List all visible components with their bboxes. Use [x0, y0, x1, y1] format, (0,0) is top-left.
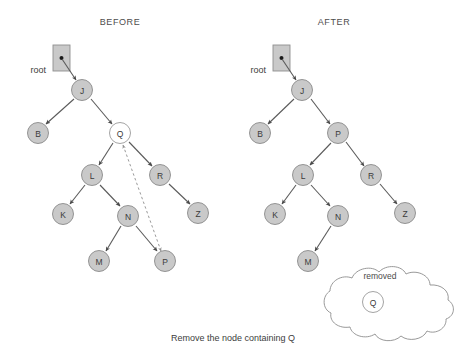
cloud-removed-label: removed [363, 271, 396, 281]
after-root-label: root [250, 65, 266, 75]
node-after-P[interactable]: P [328, 123, 349, 144]
node-after-L[interactable]: L [293, 165, 314, 186]
edge-L-N [311, 185, 330, 206]
node-label: K [60, 210, 66, 220]
node-before-M[interactable]: M [89, 251, 110, 272]
node-label: J [300, 86, 304, 96]
node-label: Q [117, 129, 124, 139]
before-root-pointer: root [30, 45, 70, 75]
edge-Q-R [129, 142, 152, 166]
node-label: Z [195, 209, 200, 219]
node-label: J [80, 86, 84, 96]
before-root-label: root [30, 65, 46, 75]
edge-R-Z [169, 184, 190, 204]
node-label: B [35, 129, 41, 139]
edge-R-Z [380, 184, 397, 204]
node-label: K [272, 210, 278, 220]
node-removed-Q[interactable]: Q [363, 292, 384, 313]
edge-P-R [346, 142, 364, 166]
node-before-P[interactable]: P [155, 251, 176, 272]
removed-cloud-group: removed Q [324, 267, 453, 341]
node-label: Z [402, 209, 407, 219]
node-label: P [335, 129, 341, 139]
tree-removal-figure: BEFORE AFTER root J [0, 0, 466, 350]
node-after-Z[interactable]: Z [395, 203, 416, 224]
node-label: P [162, 257, 168, 267]
edge-J-B [268, 99, 294, 124]
node-before-L[interactable]: L [82, 165, 103, 186]
edge-L-K [70, 185, 85, 204]
node-before-R[interactable]: R [150, 165, 171, 186]
node-label: Q [370, 298, 377, 308]
node-after-R[interactable]: R [361, 165, 382, 186]
node-label: L [90, 171, 95, 181]
panel-title-after: AFTER [318, 17, 351, 27]
edge-L-N [100, 185, 120, 206]
edge-N-M [106, 226, 121, 251]
edge-P-L [310, 143, 331, 165]
before-nodes: J B Q L R K N [28, 80, 209, 272]
edge-J-B [46, 99, 74, 124]
node-label: M [304, 257, 311, 267]
figure-caption: Remove the node containing Q [171, 333, 295, 343]
node-after-B[interactable]: B [250, 123, 271, 144]
node-after-N[interactable]: N [328, 206, 349, 227]
edge-P-to-Q-dashed [123, 145, 161, 251]
node-before-Z[interactable]: Z [188, 203, 209, 224]
after-root-pointer: root [250, 45, 290, 75]
node-label: B [257, 129, 263, 139]
node-before-B[interactable]: B [28, 123, 49, 144]
before-tree-panel: root J B [28, 45, 209, 272]
node-label: M [95, 257, 102, 267]
node-after-M[interactable]: M [298, 251, 319, 272]
node-label: N [125, 212, 131, 222]
after-nodes: J B P L R K N [250, 80, 416, 272]
node-label: R [157, 171, 163, 181]
after-tree-panel: root J B P [250, 45, 416, 272]
node-label: L [301, 171, 306, 181]
edge-N-M [315, 226, 331, 251]
edge-J-Q [91, 99, 112, 124]
node-after-K[interactable]: K [265, 204, 286, 225]
edge-Q-L [99, 143, 113, 165]
node-after-J[interactable]: J [292, 80, 313, 101]
edge-J-P [311, 99, 330, 124]
node-before-Q[interactable]: Q [110, 123, 131, 144]
node-label: N [335, 212, 341, 222]
edge-L-K [282, 185, 296, 204]
panel-title-before: BEFORE [100, 17, 141, 27]
node-before-N[interactable]: N [118, 206, 139, 227]
node-before-J[interactable]: J [72, 80, 93, 101]
node-before-K[interactable]: K [53, 204, 74, 225]
node-label: R [368, 171, 374, 181]
